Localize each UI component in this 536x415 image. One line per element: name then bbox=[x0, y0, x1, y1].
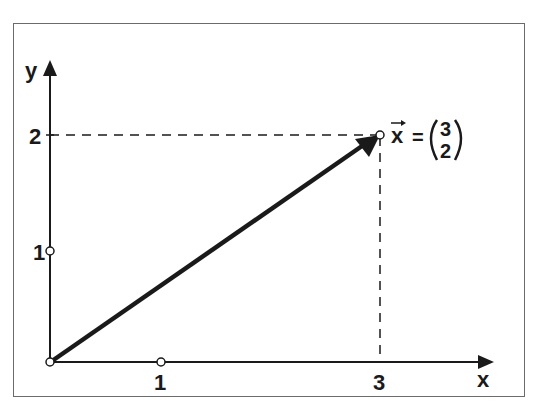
vector-component-x: 3 bbox=[440, 119, 451, 139]
left-paren-icon bbox=[431, 120, 437, 160]
y-tick-label-1: 1 bbox=[33, 242, 45, 264]
vector-component-y: 2 bbox=[440, 141, 451, 161]
x-tick-1-point bbox=[157, 358, 165, 366]
x-axis-label: x bbox=[477, 369, 489, 391]
y-axis-arrowhead-icon bbox=[43, 60, 57, 76]
vector-tip-point bbox=[376, 131, 384, 139]
origin-point bbox=[46, 358, 54, 366]
y-tick-1-point bbox=[46, 247, 54, 255]
right-paren-icon bbox=[455, 120, 461, 160]
vector-line bbox=[52, 146, 362, 361]
vector-name: x bbox=[391, 125, 403, 147]
equals-sign: = bbox=[412, 127, 424, 147]
x-tick-label-3: 3 bbox=[373, 372, 385, 394]
x-tick-label-1: 1 bbox=[154, 372, 166, 394]
vector-diagram bbox=[0, 0, 536, 415]
y-tick-label-2: 2 bbox=[29, 126, 41, 148]
y-axis-label: y bbox=[25, 60, 37, 82]
